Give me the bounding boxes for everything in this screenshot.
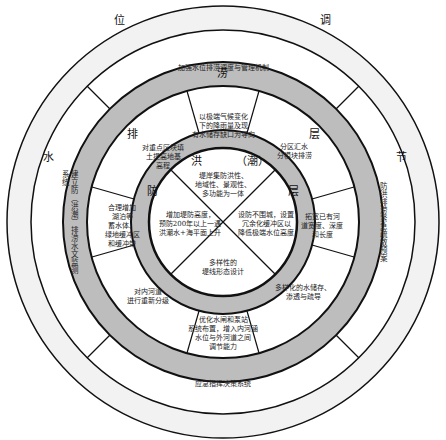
flood-defense-ring-diagram: 位 调 节 水 加强水位排涝调度与管理机制 防洪排涝紧急疏散预案 应急指挥决策系… [0,0,446,440]
middle-segment-top-right: 分区汇水 分模块排涝 [264,143,324,161]
outer-segment-right: 防洪排涝紧急疏散预案 [378,182,387,272]
middle-segment-bottom-left: 对内河道 进行重新分级 [118,288,178,306]
outer-ring-label-wei: 位 [114,15,125,26]
middle-ring-label-lao: 涝 [217,68,228,79]
inner-ring-label-fang: 防 [147,186,158,197]
middle-segment-top: 以极端气候变化 下的降雨量及现 有水储存缺口为导向 [178,113,268,140]
outer-ring-label-shui: 水 [43,152,54,163]
inner-ring-label-ceng: 层 [288,186,299,197]
outer-segment-bottom: 应急指挥决策系统 [163,380,283,389]
middle-ring-label-ceng: 层 [309,129,320,140]
middle-segment-bottom: 优化水闸和泵站 系统布置，增入内河涵 水位与外河道之间 调节能力 [178,316,268,352]
outer-ring-label-tiao: 调 [320,15,331,26]
inner-ring-label-chao: （潮） [236,156,269,167]
middle-segment-bottom-right: 多样化的水储存、 渗透与疏导 [268,284,338,302]
core-segment-top: 堤岸集防洪性、 地域性、景观性、 多功能为一体 [183,172,263,199]
inner-ring-label-hong: 洪 [191,156,202,167]
core-segment-bottom: 多样性的 堤线形态设计 [188,259,258,277]
middle-segment-top-left: 对重点区块填 土提高地基 高程 [128,144,198,171]
core-segment-right: 设防不围城，设置 冗余化缓冲区以 降低极端水位高度 [228,211,304,238]
middle-ring-label-pai: 排 [127,129,138,140]
middle-segment-left: 合理增加 湖泊等 蓄水体、 绿地缓冲区 和缓冲带 [94,204,150,249]
outer-ring-label-jie: 节 [396,152,407,163]
core-segment-left: 增加堤防高度， 预防200年以上一遇 洪潮水+海平面上升 [150,211,230,238]
outer-segment-left: 建立防（洪潮）排涝水文监测系统 [60,170,78,280]
